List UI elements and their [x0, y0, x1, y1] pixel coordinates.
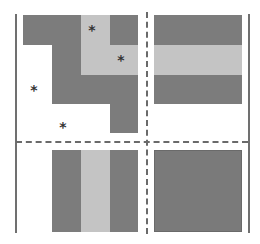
vertical-partition-dashed-line: [146, 12, 148, 234]
asterisk-marker: *: [85, 23, 99, 37]
tl-dark-middle-left: [52, 45, 81, 75]
asterisk-marker: *: [114, 53, 128, 67]
tl-dark-top-right: [110, 15, 138, 45]
bl-dark-left: [52, 150, 81, 232]
bl-light-band: [81, 150, 110, 232]
tl-dark-lower-row: [52, 75, 138, 104]
tl-dark-bottom-right: [110, 104, 138, 133]
horizontal-partition-dashed-line: [16, 141, 248, 143]
tr-dark-bottom: [154, 75, 242, 104]
left-bracket-line: [15, 14, 17, 233]
br-dark-square: [154, 150, 242, 232]
tr-light-band: [154, 45, 242, 75]
tl-light-middle: [81, 45, 138, 75]
tl-dark-top-left: [23, 15, 81, 45]
asterisk-marker: *: [27, 83, 41, 97]
right-bracket-line: [248, 14, 250, 233]
tr-dark-top: [154, 15, 242, 45]
bl-dark-right: [110, 150, 138, 232]
asterisk-marker: *: [56, 120, 70, 134]
